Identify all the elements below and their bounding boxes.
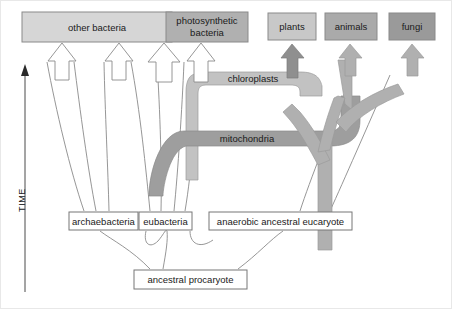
diagram-canvas: chloroplasts mitochondria [0, 0, 452, 309]
box-eubacteria[interactable]: eubacteria [139, 212, 192, 230]
box-other-bacteria[interactable]: other bacteria [22, 12, 172, 42]
time-axis-arrowhead-icon [21, 64, 29, 76]
line-archaebacteria-branch-2 [74, 62, 96, 211]
box-animals-label: animals [335, 21, 368, 32]
box-ancestral-procaryote-label: ancestral procaryote [147, 274, 233, 285]
box-plants-label: plants [279, 21, 305, 32]
box-archaebacteria-label: archaebacteria [72, 216, 136, 227]
hollow-arrow-other-bacteria-1 [48, 43, 76, 80]
chloroplasts-label: chloroplasts [228, 73, 279, 84]
box-eubacteria-label: eubacteria [143, 216, 188, 227]
box-photosynthetic-bacteria-label-line1: photosynthetic [176, 15, 238, 26]
time-axis: TIME [17, 64, 29, 292]
line-procaryote-to-eubacteria [163, 231, 167, 269]
box-other-bacteria-label: other bacteria [68, 22, 127, 33]
box-photosynthetic-bacteria[interactable]: photosynthetic bacteria [166, 12, 248, 42]
mid-boxes: archaebacteria eubacteria anaerobic ance… [69, 212, 352, 230]
arrowhead-fungi [401, 44, 424, 76]
line-procaryote-to-eucaryote [238, 231, 283, 269]
box-animals[interactable]: animals [325, 13, 377, 40]
mitochondria-label: mitochondria [220, 133, 275, 144]
box-anaerobic-ancestral-eucaryote-label: anaerobic ancestral eucaryote [217, 216, 344, 227]
line-eubacteria-to-right [190, 231, 213, 245]
line-eubacteria-loop [145, 230, 167, 245]
hollow-arrow-other-bacteria-3 [148, 43, 180, 82]
line-eubacteria-branch-1 [131, 62, 150, 211]
line-archaebacteria-branch-3 [104, 62, 109, 211]
box-ancestral-procaryote[interactable]: ancestral procaryote [134, 270, 247, 289]
box-archaebacteria[interactable]: archaebacteria [69, 212, 138, 230]
box-photosynthetic-bacteria-label-line2: bacteria [190, 27, 225, 38]
line-archaebacteria-branch-1 [47, 62, 84, 211]
box-fungi-label: fungi [402, 21, 423, 32]
box-fungi[interactable]: fungi [389, 13, 435, 40]
lineage-lines [47, 62, 390, 269]
evolution-diagram: chloroplasts mitochondria [0, 0, 452, 309]
top-boxes: other bacteria photosynthetic bacteria p… [22, 12, 435, 42]
time-axis-label: TIME [17, 188, 27, 212]
hollow-arrow-other-bacteria-2 [105, 43, 133, 80]
bottom-boxes: ancestral procaryote [134, 270, 247, 289]
box-plants[interactable]: plants [268, 13, 316, 40]
line-procaryote-to-archaebacteria [100, 231, 150, 269]
box-anaerobic-ancestral-eucaryote[interactable]: anaerobic ancestral eucaryote [209, 212, 352, 230]
